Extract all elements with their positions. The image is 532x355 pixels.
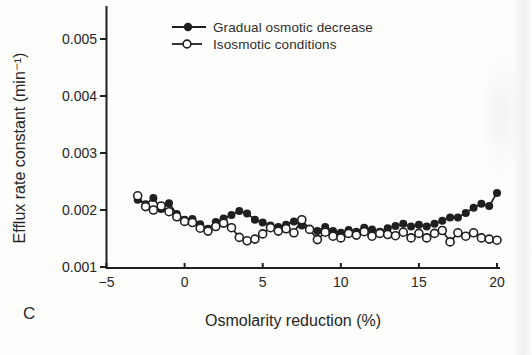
open-circle-marker [392,232,400,240]
filled-circle-marker [438,217,446,225]
y-tick-label: 0.005 [62,31,97,47]
open-circle-marker [142,203,150,211]
y-tick-label: 0.001 [62,259,97,275]
x-tick-label: −5 [99,274,115,290]
y-axis-title: Efflux rate constant (min⁻¹) [11,53,28,244]
filled-circle-marker [313,227,321,235]
filled-circle-marker [423,223,431,231]
open-circle-marker [462,232,470,240]
open-circle-marker [173,213,181,221]
open-circle-marker [493,236,501,244]
y-tick-label: 0.003 [62,145,97,161]
filled-circle-marker [485,202,493,210]
legend-label-gradual: Gradual osmotic decrease [213,20,373,35]
open-circle-marker [274,227,282,235]
filled-circle-marker [454,213,462,221]
open-circle-marker [399,228,407,236]
open-circle-legend-icon [172,38,206,50]
chart-legend: Gradual osmotic decrease Isosmotic condi… [172,19,373,52]
open-circle-marker [368,232,376,240]
open-circle-marker [446,238,454,246]
open-circle-marker [407,234,415,242]
data-series-layer [134,189,501,246]
open-circle-marker [423,234,431,242]
open-circle-marker [345,229,353,237]
open-circle-marker [228,224,236,232]
filled-circle-legend-icon [172,21,206,33]
open-circle-marker [321,228,329,236]
open-circle-marker [134,192,142,200]
open-circle-marker [165,208,173,216]
open-circle-marker [431,229,439,237]
filled-circle-marker [446,213,454,221]
open-circle-marker [188,219,196,227]
filled-circle-marker [470,204,478,212]
filled-circle-marker [399,220,407,228]
filled-circle-marker [165,199,173,207]
legend-label-isosmotic: Isosmotic conditions [213,37,337,52]
y-tick-label: 0.004 [62,88,97,104]
open-circle-marker [329,232,337,240]
x-tick-label: 5 [259,274,267,290]
open-circle-marker [485,235,493,243]
legend-item-isosmotic-conditions: Isosmotic conditions [172,36,373,52]
open-circle-marker [290,229,298,237]
open-circle-marker [267,224,275,232]
filled-circle-marker [462,209,470,217]
open-circle-marker [337,234,345,242]
x-axis-title: Osmolarity reduction (%) [205,312,381,329]
open-circle-marker [149,206,157,214]
open-circle-marker [235,233,243,241]
legend-item-gradual-osmotic-decrease: Gradual osmotic decrease [172,19,373,35]
filled-circle-marker [149,194,157,202]
open-circle-marker [352,231,360,239]
open-circle-marker [376,229,384,237]
open-circle-marker [384,231,392,239]
open-circle-marker [438,227,446,235]
open-circle-marker [360,228,368,236]
efflux-rate-chart: 0.0010.0020.0030.0040.005−505101520 Osmo… [0,0,532,355]
filled-circle-marker [235,207,243,215]
open-circle-marker [259,230,267,238]
filled-circle-marker [477,200,485,208]
y-tick-label: 0.002 [62,202,97,218]
open-circle-marker [181,217,189,225]
filled-circle-marker [493,189,501,197]
open-circle-marker [313,236,321,244]
open-circle-marker [470,229,478,237]
panel-label: C [23,304,35,324]
x-tick-label: 10 [333,274,349,290]
open-circle-marker [220,219,228,227]
open-circle-marker [415,229,423,237]
filled-circle-marker [431,220,439,228]
filled-circle-marker [243,209,251,217]
x-tick-label: 15 [411,274,427,290]
open-circle-marker [306,225,314,233]
open-circle-marker [477,234,485,242]
open-circle-marker [282,225,290,233]
x-tick-label: 20 [489,274,505,290]
filled-circle-marker [407,223,415,231]
open-circle-marker [157,202,165,210]
filled-circle-marker [228,211,236,219]
open-circle-marker [196,224,204,232]
open-circle-marker [243,237,251,245]
filled-circle-marker [392,222,400,230]
filled-circle-marker [259,219,267,227]
figure-panel: 0.0010.0020.0030.0040.005−505101520 Osmo… [0,0,532,355]
open-circle-marker [454,229,462,237]
open-circle-marker [251,235,259,243]
filled-circle-marker [290,217,298,225]
filled-circle-marker [251,216,259,224]
open-circle-marker [298,216,306,224]
x-tick-label: 0 [181,274,189,290]
open-circle-marker [212,223,220,231]
open-circle-marker [204,227,212,235]
filled-circle-marker [415,221,423,229]
